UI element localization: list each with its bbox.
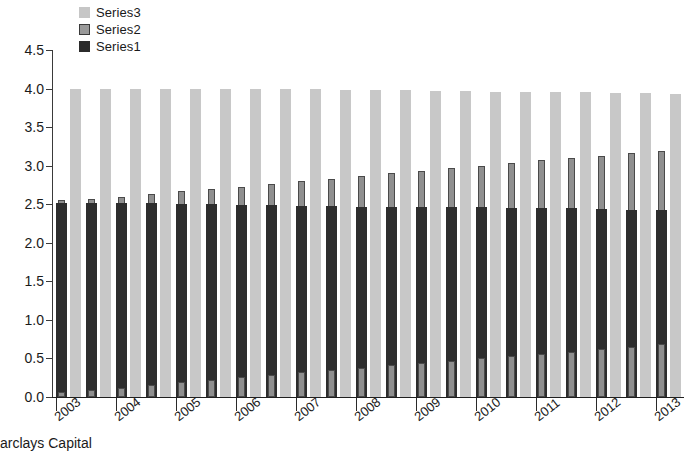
bar-group xyxy=(416,50,446,397)
source-caption: arclays Capital xyxy=(0,436,92,450)
bar-group xyxy=(326,50,356,397)
bar-group xyxy=(296,50,326,397)
bar-series1 xyxy=(296,206,307,397)
y-tick-label: 1.5 xyxy=(4,274,44,288)
y-tick-label: 2.0 xyxy=(4,236,44,250)
bar-series3 xyxy=(190,89,201,397)
legend-label-series3: Series3 xyxy=(96,6,141,19)
bar-group xyxy=(386,50,416,397)
bar-series3 xyxy=(460,91,471,397)
y-tick-label: 2.5 xyxy=(4,197,44,211)
bar-series2-base xyxy=(148,385,155,397)
bar-group xyxy=(176,50,206,397)
bar-series3 xyxy=(670,94,681,397)
bar-series3 xyxy=(100,89,111,397)
bar-series2-base xyxy=(508,356,515,397)
y-axis-labels: 4.54.03.53.02.52.01.51.00.50.0 xyxy=(0,0,44,452)
bar-series2-base xyxy=(478,358,485,397)
bar-series1 xyxy=(176,204,187,397)
bar-series2-base xyxy=(298,372,305,397)
y-tick-label: 4.5 xyxy=(4,43,44,57)
bar-group xyxy=(356,50,386,397)
bar-group xyxy=(476,50,506,397)
bar-group xyxy=(656,50,685,397)
bar-series2-base xyxy=(208,380,215,397)
bar-group xyxy=(566,50,596,397)
bar-series2-base xyxy=(328,370,335,397)
plot-area xyxy=(53,50,683,397)
bar-series2-base xyxy=(568,352,575,397)
bar-series2-base xyxy=(388,365,395,397)
y-tick-label: 1.0 xyxy=(4,313,44,327)
y-tick-label: 3.0 xyxy=(4,159,44,173)
bar-series3 xyxy=(340,90,351,397)
bar-series1 xyxy=(206,204,217,397)
y-tick-label: 4.0 xyxy=(4,82,44,96)
bar-series2-base xyxy=(418,363,425,397)
legend-swatch-series3 xyxy=(79,7,90,18)
bar-series1 xyxy=(86,203,97,397)
legend-label-series2: Series2 xyxy=(96,23,141,36)
bar-series3 xyxy=(640,93,651,397)
bar-group xyxy=(536,50,566,397)
bar-series1 xyxy=(326,206,337,397)
bar-series3 xyxy=(580,92,591,397)
bar-series2-base xyxy=(448,361,455,397)
bar-group xyxy=(56,50,86,397)
legend-item-series2: Series2 xyxy=(79,21,141,37)
bar-series2-base xyxy=(238,377,245,397)
y-tick-label: 3.5 xyxy=(4,120,44,134)
bar-series3 xyxy=(610,93,621,397)
chart-legend: Series3 Series2 Series1 xyxy=(79,4,141,55)
bar-series3 xyxy=(520,92,531,397)
bar-group xyxy=(206,50,236,397)
bar-series2-base xyxy=(358,368,365,397)
bar-group xyxy=(116,50,146,397)
bar-series1 xyxy=(266,205,277,397)
bar-series3 xyxy=(490,92,501,397)
bar-series3 xyxy=(280,89,291,397)
bar-series2-base xyxy=(658,344,665,397)
bar-series1 xyxy=(146,203,157,397)
bar-group xyxy=(86,50,116,397)
bar-series2-base xyxy=(58,392,65,397)
bar-group xyxy=(446,50,476,397)
bar-series3 xyxy=(130,89,141,397)
bar-series3 xyxy=(220,89,231,397)
bar-chart: Series3 Series2 Series1 4.54.03.53.02.52… xyxy=(0,0,685,452)
legend-item-series3: Series3 xyxy=(79,4,141,20)
bar-group xyxy=(506,50,536,397)
bar-series3 xyxy=(160,89,171,397)
bar-series3 xyxy=(250,89,261,397)
bar-series1 xyxy=(116,203,127,397)
bar-series1 xyxy=(56,203,67,397)
bar-series2-base xyxy=(118,388,125,397)
y-tick-label: 0.5 xyxy=(4,351,44,365)
bar-group xyxy=(266,50,296,397)
bar-series2-base xyxy=(598,349,605,397)
bar-series2-base xyxy=(88,390,95,397)
bar-group xyxy=(236,50,266,397)
bar-series3 xyxy=(310,89,321,397)
bar-series3 xyxy=(370,90,381,397)
bar-series1 xyxy=(236,205,247,397)
bar-series3 xyxy=(400,90,411,397)
legend-swatch-series2 xyxy=(79,24,90,35)
bar-series3 xyxy=(70,89,81,397)
y-tick-label: 0.0 xyxy=(4,390,44,404)
bar-series2-base xyxy=(538,354,545,397)
bar-series2-base xyxy=(268,375,275,397)
bar-series3 xyxy=(550,92,561,397)
bar-group xyxy=(626,50,656,397)
bar-group xyxy=(146,50,176,397)
bar-series2-base xyxy=(178,382,185,397)
bar-series2-base xyxy=(628,347,635,397)
bar-series3 xyxy=(430,91,441,397)
bar-group xyxy=(596,50,626,397)
